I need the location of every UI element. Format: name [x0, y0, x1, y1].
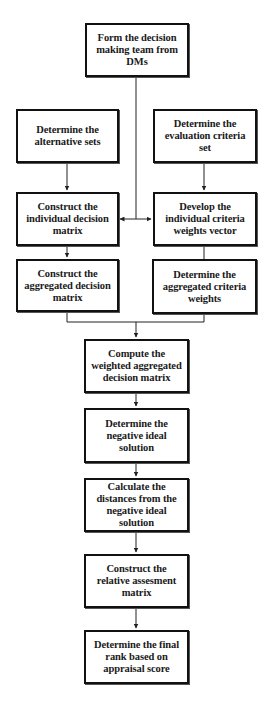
node-label: Form the decision making team from DMs	[90, 32, 184, 68]
node-label: Determine the final rank based on apprai…	[89, 639, 184, 675]
node-aggregated-weights: Determine the aggregated criteria weight…	[152, 259, 257, 314]
node-label: Construct the individual decision matrix	[21, 201, 114, 237]
flowchart-canvas: Form the decision making team from DMs D…	[0, 0, 266, 713]
node-relative-matrix: Construct the relative assesment matrix	[84, 554, 189, 608]
node-label: Compute the weighted aggregated decision…	[89, 348, 184, 384]
node-individual-matrix: Construct the individual decision matrix	[16, 192, 119, 246]
node-final-rank: Determine the final rank based on apprai…	[84, 630, 189, 684]
node-evaluation-criteria: Determine the evaluation criteria set	[153, 109, 257, 163]
node-form-team: Form the decision making team from DMs	[85, 23, 189, 77]
node-aggregated-matrix: Construct the aggregated decision matrix	[16, 259, 119, 312]
node-label: Determine the negative ideal solution	[89, 418, 184, 454]
node-weighted-matrix: Compute the weighted aggregated decision…	[84, 339, 189, 393]
node-label: Construct the aggregated decision matrix	[21, 268, 114, 304]
node-label: Determine the aggregated criteria weight…	[157, 269, 252, 305]
node-label: Develop the individual criteria weights …	[158, 201, 252, 237]
node-distances: Calculate the distances from the negativ…	[84, 478, 189, 532]
node-label: Calculate the distances from the negativ…	[89, 481, 184, 529]
node-label: Determine the evaluation criteria set	[158, 118, 252, 154]
node-label: Construct the relative assesment matrix	[89, 563, 184, 599]
node-negative-ideal: Determine the negative ideal solution	[84, 408, 189, 463]
node-alternative-sets: Determine the alternative sets	[16, 109, 119, 163]
node-label: Determine the alternative sets	[21, 124, 114, 148]
node-individual-weights: Develop the individual criteria weights …	[153, 192, 257, 246]
